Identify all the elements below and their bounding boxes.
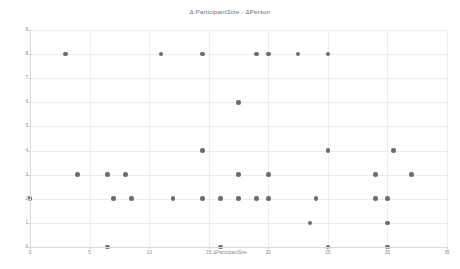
gridline-vertical [328,30,329,247]
data-point [308,221,313,226]
gridline-vertical [149,30,150,247]
y-tick-label: 3 [8,172,28,177]
data-point [326,52,331,57]
y-tick-label: 8 [8,52,28,57]
data-point [75,172,80,177]
plot-area [30,30,447,247]
data-point [236,100,241,105]
data-point [105,172,110,177]
y-tick-mark [28,30,30,31]
y-tick-label: 6 [8,100,28,105]
data-point [200,148,205,153]
y-tick-mark [28,199,30,200]
y-tick-label: 9 [8,28,28,33]
data-point [391,148,396,153]
x-tick-mark [90,247,91,249]
data-point [296,52,301,57]
data-point [159,52,164,57]
y-tick-label: 1 [8,221,28,226]
gridline-vertical [387,30,388,247]
y-tick-mark [28,175,30,176]
y-axis-line [30,30,31,247]
chart-title: Δ ParticipantSize - ΔPerson [0,8,460,15]
data-point [373,196,378,201]
data-point [254,52,259,57]
y-tick-mark [28,126,30,127]
y-tick-mark [28,78,30,79]
data-point [129,196,134,201]
data-point [314,196,319,201]
x-tick-mark [149,247,150,249]
x-tick-mark [328,247,329,249]
gridline-horizontal [30,54,447,55]
y-tick-mark [28,151,30,152]
data-point [326,148,331,153]
y-tick-label: 2 [8,196,28,201]
data-point [63,52,68,57]
data-point [373,172,378,177]
gridline-vertical [209,30,210,247]
data-point [266,172,271,177]
data-point [254,196,259,201]
gridline-horizontal [30,78,447,79]
data-point [200,52,205,57]
data-point [171,196,176,201]
data-point [385,221,390,226]
data-point [200,196,205,201]
y-tick-label: 7 [8,76,28,81]
data-point [266,52,271,57]
x-tick-mark [209,247,210,249]
data-point [409,172,414,177]
y-tick-mark [28,102,30,103]
data-point [123,172,128,177]
data-point [266,196,271,201]
x-tick-mark [387,247,388,249]
data-point [236,172,241,177]
gridline-vertical [90,30,91,247]
gridline-horizontal [30,126,447,127]
x-axis-title: ΔParticipantSize [0,251,460,256]
gridline-horizontal [30,151,447,152]
y-tick-label: 5 [8,124,28,129]
gridline-horizontal [30,30,447,31]
data-point [218,196,223,201]
y-tick-mark [28,223,30,224]
y-axis-ticks: 0123456789 [0,0,28,269]
y-tick-mark [28,247,30,248]
y-tick-label: 0 [8,245,28,250]
data-point [385,196,390,201]
scatter-chart: Δ ParticipantSize - ΔPerson 0123456789 0… [0,0,460,269]
data-point [236,196,241,201]
gridline-vertical [447,30,448,247]
x-axis-line [30,247,447,248]
gridline-vertical [268,30,269,247]
data-point [111,196,116,201]
y-tick-label: 4 [8,148,28,153]
y-tick-mark [28,54,30,55]
x-tick-mark [268,247,269,249]
x-tick-mark [447,247,448,249]
x-tick-mark [30,247,31,249]
